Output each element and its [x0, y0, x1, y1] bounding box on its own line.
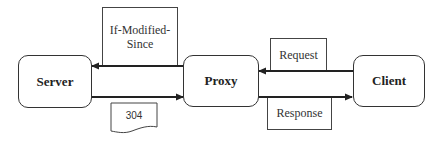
client-node: Client — [353, 55, 425, 107]
server-label: Server — [37, 74, 74, 90]
client-label: Client — [372, 73, 406, 89]
proxy-node: Proxy — [183, 55, 259, 107]
proxy-label: Proxy — [205, 73, 238, 89]
server-node: Server — [18, 55, 92, 108]
